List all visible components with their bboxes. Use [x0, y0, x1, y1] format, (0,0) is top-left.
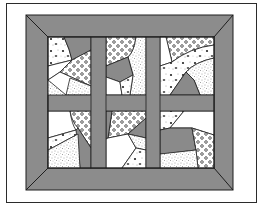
block-top-left	[48, 37, 91, 95]
quilt-illustration	[0, 0, 260, 206]
block-top-right	[160, 37, 214, 95]
block-bottom-left	[48, 111, 91, 168]
block-top-middle	[106, 37, 146, 95]
block-bottom-right	[160, 111, 214, 168]
block-bottom-middle	[106, 111, 146, 168]
